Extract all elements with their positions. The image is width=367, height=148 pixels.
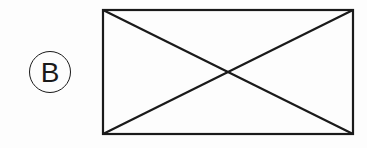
rectangle-with-diagonals bbox=[0, 0, 367, 148]
diagram-canvas: B bbox=[0, 0, 367, 148]
